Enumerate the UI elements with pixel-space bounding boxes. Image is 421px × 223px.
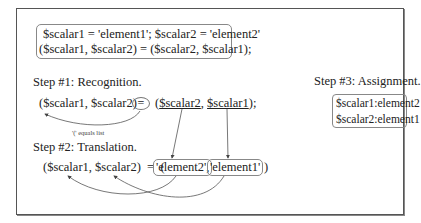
arrow-element2-to-scalar1 (68, 176, 176, 194)
arrow-scalar2-to-element2 (172, 109, 182, 158)
arrow-scalar1-to-element1 (227, 109, 228, 158)
arrow-equals-to-lhs (45, 111, 140, 125)
